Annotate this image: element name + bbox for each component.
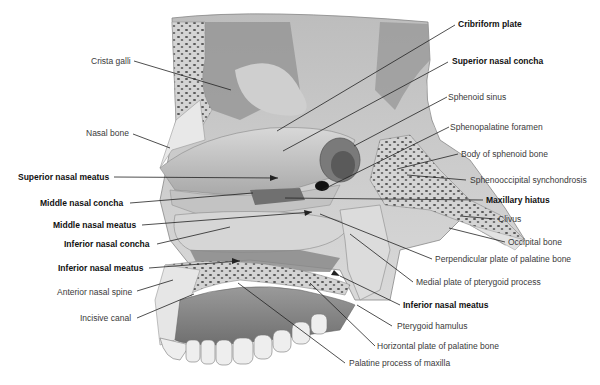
- label-nasal-bone: Nasal bone: [86, 128, 129, 138]
- label-sphenooccipital-synchondrosis: Sphenooccipital synchondrosis: [470, 175, 587, 185]
- nasal-cavity-figure: Crista galli Nasal bone Superior nasal m…: [0, 0, 600, 385]
- label-medial-plate-pterygoid: Medial plate of pterygoid process: [416, 277, 541, 287]
- label-inferior-nasal-meatus-right: Inferior nasal meatus: [403, 300, 489, 310]
- label-superior-nasal-concha: Superior nasal concha: [452, 56, 543, 66]
- label-incisive-canal: Incisive canal: [80, 313, 131, 323]
- label-superior-nasal-meatus: Superior nasal meatus: [18, 172, 109, 182]
- label-cribriform-plate: Cribriform plate: [458, 19, 522, 29]
- label-inferior-nasal-concha: Inferior nasal concha: [64, 239, 150, 249]
- label-sphenopalatine-foramen: Sphenopalatine foramen: [450, 122, 543, 132]
- label-sphenoid-sinus: Sphenoid sinus: [448, 92, 506, 102]
- label-inferior-nasal-meatus-left: Inferior nasal meatus: [58, 263, 144, 273]
- label-anterior-nasal-spine: Anterior nasal spine: [57, 287, 132, 297]
- label-pterygoid-hamulus: Pterygoid hamulus: [397, 321, 467, 331]
- label-middle-nasal-concha: Middle nasal concha: [40, 198, 123, 208]
- label-body-of-sphenoid-bone: Body of sphenoid bone: [461, 149, 548, 159]
- label-occipital-bone: Occipital bone: [508, 237, 562, 247]
- label-middle-nasal-meatus: Middle nasal meatus: [53, 220, 136, 230]
- label-horizontal-plate-palatine: Horizontal plate of palatine bone: [377, 341, 499, 351]
- label-clivus: Clivus: [498, 214, 521, 224]
- label-perpendicular-plate-palatine: Perpendicular plate of palatine bone: [435, 254, 571, 264]
- label-crista-galli: Crista galli: [91, 56, 131, 66]
- label-maxillary-hiatus: Maxillary hiatus: [486, 195, 550, 205]
- label-palatine-process-maxilla: Palatine process of maxilla: [349, 358, 450, 368]
